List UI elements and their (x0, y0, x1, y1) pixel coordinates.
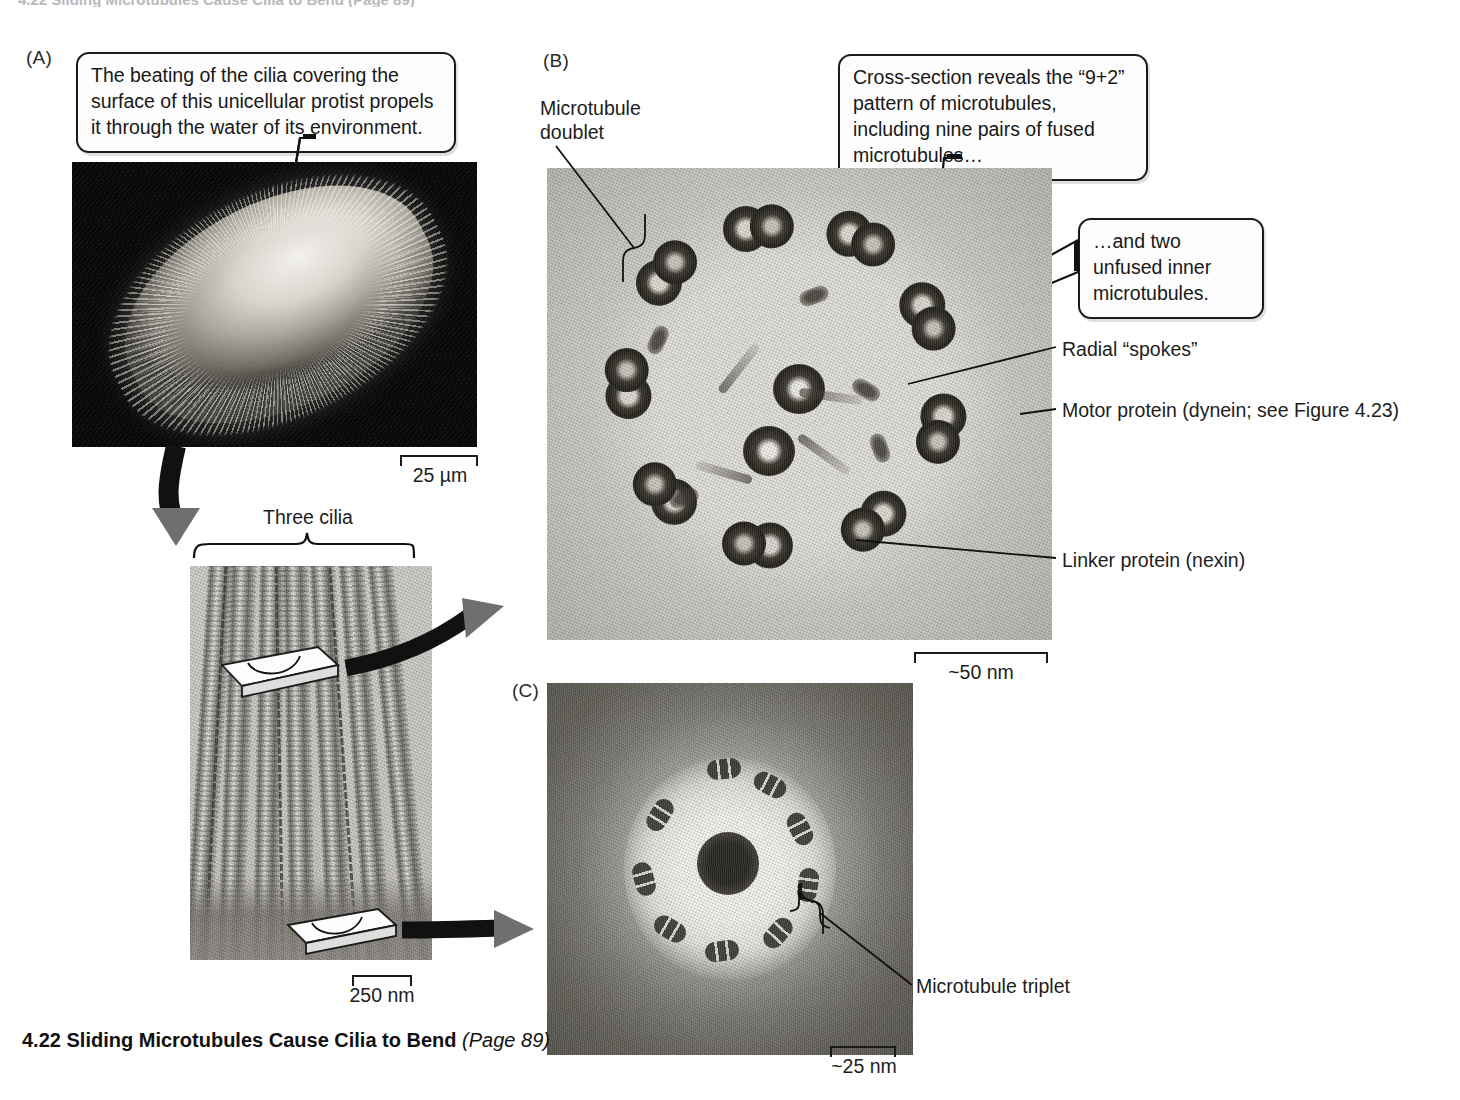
figure-caption: 4.22 Sliding Microtubules Cause Cilia to… (22, 1029, 550, 1052)
leader-microtubule-triplet (0, 0, 1460, 1100)
figure-title: Sliding Microtubules Cause Cilia to Bend (67, 1029, 457, 1051)
figure-page-reference: (Page 89) (462, 1029, 550, 1051)
scale-bar-25nm-label: ~25 nm (808, 1055, 920, 1078)
figure-number: 4.22 (22, 1029, 61, 1051)
label-microtubule-triplet: Microtubule triplet (916, 974, 1070, 998)
